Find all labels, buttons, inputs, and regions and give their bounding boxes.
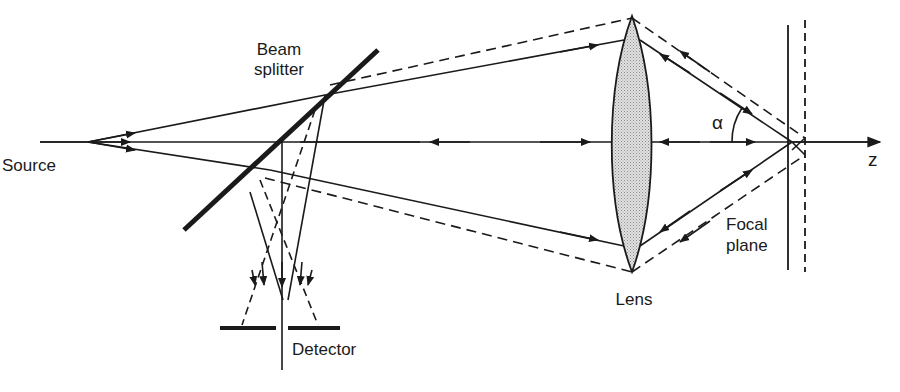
angle-alpha-label: α bbox=[712, 113, 723, 133]
diagram-canvas bbox=[0, 0, 900, 392]
beam-splitter-label-line2: splitter bbox=[244, 60, 314, 80]
source-label: Source bbox=[2, 156, 56, 176]
beam-splitter-label-line1: Beam bbox=[244, 40, 314, 60]
z-axis-label: z bbox=[868, 150, 878, 170]
dashed-rays-to-lens bbox=[265, 18, 632, 272]
focal-plane-label-line2: plane bbox=[726, 236, 768, 256]
lens-label: Lens bbox=[604, 290, 664, 310]
detector-label: Detector bbox=[292, 340, 356, 360]
focal-plane-label-line1: Focal bbox=[726, 215, 768, 235]
angle-alpha-arc bbox=[732, 108, 742, 142]
solid-rays-to-lens bbox=[270, 40, 624, 246]
lens bbox=[612, 16, 652, 272]
optical-diagram: Source Beam splitter Detector Lens Focal… bbox=[0, 0, 900, 392]
